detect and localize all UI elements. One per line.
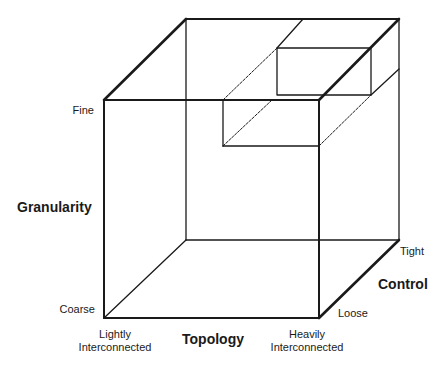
granularity-low-label: Coarse [40,304,95,315]
control-axis-label: Control [378,277,428,291]
control-high-label: Tight [400,246,424,257]
highlighted-subcube [223,19,399,146]
topology-axis-label: Topology [182,332,244,346]
control-low-label: Loose [338,308,368,319]
design-space-cube-diagram: Fine Granularity Coarse Lightly Intercon… [0,0,446,367]
cube-depth-edge-top-right [319,19,399,100]
topology-high-label-line1: Heavily [289,329,325,340]
topology-low-label-line2: Interconnected [79,342,152,353]
granularity-axis-label: Granularity [17,200,92,214]
topology-low-label-line1: Lightly [99,329,131,340]
granularity-high-label: Fine [56,105,94,116]
cube-front-face [104,100,319,318]
cube-depth-edge-top-left [104,19,186,100]
topology-high-label-line2: Interconnected [271,342,344,353]
cube-depth-edge-bottom-left [104,240,186,318]
